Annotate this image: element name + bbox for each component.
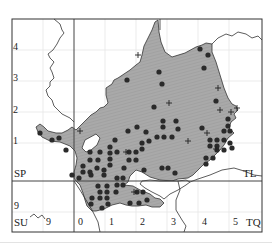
record-dot bbox=[49, 137, 54, 142]
county-region bbox=[36, 20, 238, 211]
record-dot bbox=[203, 161, 208, 166]
record-dot bbox=[221, 137, 226, 142]
distribution-map bbox=[0, 0, 272, 251]
record-dot bbox=[144, 197, 149, 202]
record-dot bbox=[114, 149, 119, 154]
record-dot bbox=[89, 195, 94, 200]
record-dot bbox=[87, 157, 92, 162]
record-dot bbox=[207, 137, 212, 142]
grid-label-northing: 4 bbox=[13, 42, 18, 52]
record-dot bbox=[114, 175, 119, 180]
record-dot bbox=[94, 165, 99, 170]
record-dot bbox=[133, 157, 138, 162]
record-dot bbox=[95, 183, 100, 188]
record-dot bbox=[104, 183, 109, 188]
record-dot bbox=[140, 189, 145, 194]
record-dot bbox=[107, 162, 112, 167]
record-dot bbox=[97, 189, 102, 194]
record-dot bbox=[112, 137, 117, 142]
record-dot bbox=[169, 134, 174, 139]
record-dot bbox=[203, 155, 208, 160]
record-dot bbox=[101, 172, 106, 177]
record-dot bbox=[139, 140, 144, 145]
record-dot bbox=[99, 205, 104, 210]
record-dot bbox=[146, 138, 151, 143]
record-dot bbox=[213, 98, 218, 103]
record-dot bbox=[229, 145, 234, 150]
square-label-tq: TQ bbox=[246, 217, 261, 227]
record-dot bbox=[197, 46, 202, 51]
record-dot bbox=[107, 144, 112, 149]
record-dot bbox=[88, 172, 93, 177]
record-dot bbox=[205, 52, 210, 57]
record-dot bbox=[37, 130, 42, 135]
record-dot bbox=[88, 201, 93, 206]
grid-label: 9 bbox=[46, 217, 51, 227]
record-dot bbox=[97, 195, 102, 200]
grid-label-easting: 1 bbox=[109, 217, 114, 227]
record-dot bbox=[104, 189, 109, 194]
record-dot bbox=[165, 165, 170, 170]
record-dot bbox=[159, 81, 164, 86]
record-dot bbox=[87, 149, 92, 154]
record-dot bbox=[201, 65, 206, 70]
record-dot bbox=[120, 175, 125, 180]
grid-label-easting: 5 bbox=[233, 217, 238, 227]
record-dot bbox=[156, 69, 161, 74]
grid-label-northing: 3 bbox=[13, 73, 18, 83]
record-dot bbox=[56, 135, 61, 140]
record-dot bbox=[101, 167, 106, 172]
record-dot bbox=[161, 134, 166, 139]
record-dot bbox=[80, 169, 85, 174]
record-dot bbox=[160, 118, 165, 123]
grid-label-northing: 2 bbox=[13, 105, 18, 115]
record-dot bbox=[154, 134, 159, 139]
record-dot bbox=[139, 146, 144, 151]
record-dot bbox=[104, 195, 109, 200]
record-dot bbox=[120, 182, 125, 187]
record-dot bbox=[95, 157, 100, 162]
record-dot bbox=[225, 116, 230, 121]
record-dot bbox=[113, 189, 118, 194]
record-dot bbox=[133, 149, 138, 154]
record-dot bbox=[221, 128, 226, 133]
record-dot bbox=[225, 123, 230, 128]
record-dot bbox=[214, 137, 219, 142]
record-dot bbox=[227, 140, 232, 145]
record-dot bbox=[107, 156, 112, 161]
record-dot bbox=[105, 201, 110, 206]
grid-label: 9 bbox=[14, 201, 19, 211]
record-dot bbox=[227, 128, 232, 133]
grid-label-easting: 4 bbox=[202, 217, 207, 227]
grid-label-easting: 3 bbox=[171, 217, 176, 227]
record-dot bbox=[173, 118, 178, 123]
record-dot bbox=[151, 104, 156, 109]
record-dot bbox=[207, 143, 212, 148]
record-dot bbox=[214, 147, 219, 152]
square-label-sp: SP bbox=[14, 168, 26, 178]
record-dot bbox=[63, 147, 68, 152]
record-dot bbox=[97, 149, 102, 154]
record-dot bbox=[134, 124, 139, 129]
record-dot bbox=[159, 165, 164, 170]
record-dot bbox=[160, 124, 165, 129]
record-dot bbox=[127, 200, 132, 205]
grid-label-easting: 2 bbox=[140, 217, 145, 227]
square-label-su: SU bbox=[14, 217, 28, 227]
record-dot bbox=[172, 170, 177, 175]
record-dot bbox=[107, 150, 112, 155]
square-label-tl: TL bbox=[243, 168, 256, 178]
record-dot bbox=[125, 128, 130, 133]
record-dot bbox=[210, 155, 215, 160]
record-dot bbox=[136, 200, 141, 205]
record-dot bbox=[141, 167, 146, 172]
grid-label-easting: 0 bbox=[78, 217, 83, 227]
record-dot bbox=[80, 163, 85, 168]
record-dot bbox=[143, 129, 148, 134]
grid-label-northing: 1 bbox=[13, 136, 18, 146]
divider bbox=[0, 242, 272, 243]
record-dot bbox=[199, 125, 204, 130]
record-dot bbox=[126, 157, 131, 162]
record-dot bbox=[124, 77, 129, 82]
record-dot bbox=[175, 126, 180, 131]
